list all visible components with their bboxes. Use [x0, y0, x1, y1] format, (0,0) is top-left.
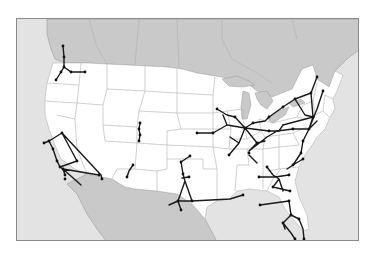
map-frame: [16, 18, 359, 241]
us-rail-network-map: [17, 19, 359, 241]
